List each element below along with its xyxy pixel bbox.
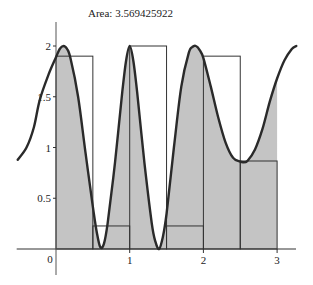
x-tick-label: 1 bbox=[127, 254, 133, 266]
y-tick-label: 1 bbox=[46, 142, 52, 154]
x-tick-label: 0 bbox=[47, 253, 53, 265]
x-tick-label: 3 bbox=[274, 254, 280, 266]
riemann-sum-chart: 01230.511.52 Area: 3.569425922 bbox=[0, 0, 313, 285]
y-tick-label: 0.5 bbox=[37, 192, 51, 204]
y-tick-label: 2 bbox=[46, 40, 52, 52]
x-tick-label: 2 bbox=[201, 254, 207, 266]
area-label: Area: 3.569425922 bbox=[88, 7, 173, 19]
